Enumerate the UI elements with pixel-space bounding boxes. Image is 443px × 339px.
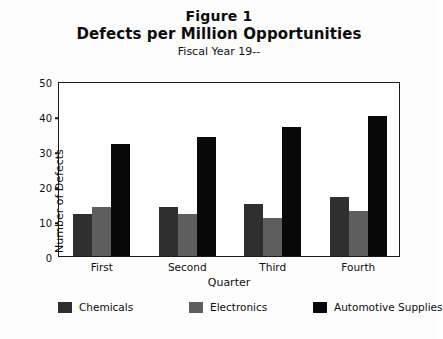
y-axis-tick-label: 10 [39, 218, 52, 229]
legend-label: Electronics [210, 301, 267, 313]
legend-item: Chemicals [58, 299, 133, 315]
x-axis-tick-label: Third [259, 261, 286, 273]
chart-subtitle: Fiscal Year 19-- [0, 45, 438, 59]
bar [349, 211, 368, 257]
y-axis-tick-label: 50 [39, 78, 52, 89]
bar [263, 218, 282, 257]
y-axis-tick-label: 30 [39, 148, 52, 159]
x-axis-tick-label: Fourth [341, 261, 375, 273]
plot-frame: Number of Defects FirstSecondThirdFourth… [58, 82, 400, 257]
bar [178, 214, 197, 256]
x-axis-tick-label: First [91, 261, 113, 273]
bar [282, 127, 301, 257]
bar [330, 197, 349, 257]
bar [159, 207, 178, 256]
bar-group: Fourth [316, 83, 402, 256]
plot-area: FirstSecondThirdFourth [59, 83, 399, 256]
bar-group: First [59, 83, 145, 256]
bar [244, 204, 263, 257]
legend-swatch [58, 302, 72, 313]
bar [197, 137, 216, 256]
bar [73, 214, 92, 256]
chart-title: Defects per Million Opportunities [0, 25, 438, 44]
bar-group: Second [145, 83, 231, 256]
y-axis-tick-label: 20 [39, 183, 52, 194]
y-axis-tick-mark [55, 117, 59, 119]
bar [92, 207, 111, 256]
title-block: Figure 1 Defects per Million Opportuniti… [0, 8, 438, 59]
figure-label: Figure 1 [0, 8, 438, 25]
legend-label: Automotive Supplies [334, 301, 443, 313]
y-axis-tick-mark [55, 222, 59, 224]
legend-item: Automotive Supplies [313, 299, 443, 315]
legend-swatch [189, 302, 203, 313]
legend-swatch [313, 302, 327, 313]
bar [368, 116, 387, 256]
chart-legend: ChemicalsElectronicsAutomotive Supplies [58, 299, 418, 315]
legend-label: Chemicals [79, 301, 133, 313]
x-axis-label: Quarter [58, 276, 400, 289]
bar [111, 144, 130, 256]
y-axis-tick-label: 0 [46, 253, 52, 264]
y-axis-tick-mark [55, 152, 59, 154]
x-axis-tick-label: Second [168, 261, 207, 273]
y-axis-tick-mark [55, 187, 59, 189]
bar-group: Third [230, 83, 316, 256]
y-axis-tick-label: 40 [39, 113, 52, 124]
legend-item: Electronics [189, 299, 267, 315]
